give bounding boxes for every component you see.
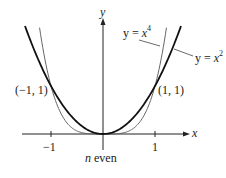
leader-line-x2 [174, 49, 193, 56]
point-label-neg1-1: (−1, 1) [15, 84, 48, 96]
eq-lhs: y = [195, 51, 214, 65]
eq-lhs: y = [123, 26, 142, 40]
y-axis-arrow-icon [101, 18, 106, 25]
x-tick-label-neg1: −1 [43, 141, 56, 153]
y-axis-label: y [100, 6, 105, 18]
x-axis-arrow-icon [183, 132, 190, 137]
figure-caption: n even [85, 152, 117, 164]
x-axis-label: x [192, 127, 197, 139]
eq-exponent: 2 [219, 49, 223, 58]
curve-label-x2: y = x2 [195, 52, 223, 64]
x-tick-label-1: 1 [152, 141, 158, 153]
curve-label-x4: y = x4 [123, 27, 151, 39]
eq-exponent: 4 [147, 24, 151, 33]
point-label-1-1: (1, 1) [158, 84, 184, 96]
caption-text: even [91, 151, 117, 165]
power-functions-figure: y x −1 1 (−1, 1) (1, 1) y = x4 y = x2 n … [0, 0, 226, 178]
leader-line-x4 [139, 40, 160, 46]
